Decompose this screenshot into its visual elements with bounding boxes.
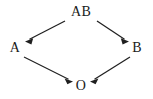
edge-b-to-o-line <box>95 57 131 79</box>
edge-ab-to-b <box>97 21 129 44</box>
node-label-ab: AB <box>71 5 91 19</box>
edge-a-to-o-line <box>24 57 69 79</box>
edge-ab-to-b-arrowhead <box>121 38 129 44</box>
edge-ab-to-a-arrowhead <box>25 38 33 44</box>
node-label-b: B <box>132 41 142 55</box>
node-label-a: A <box>10 41 20 55</box>
edge-a-to-o-arrowhead <box>65 79 73 85</box>
edge-ab-to-b-line <box>97 21 125 39</box>
edge-a-to-o <box>24 57 73 84</box>
blood-type-inheritance-diagram: AB A B O <box>0 0 153 99</box>
edge-b-to-o <box>90 57 130 84</box>
node-label-o: O <box>76 79 86 93</box>
edge-ab-to-a <box>25 21 65 44</box>
edge-ab-to-a-line <box>30 21 66 39</box>
edge-b-to-o-arrowhead <box>90 79 98 85</box>
